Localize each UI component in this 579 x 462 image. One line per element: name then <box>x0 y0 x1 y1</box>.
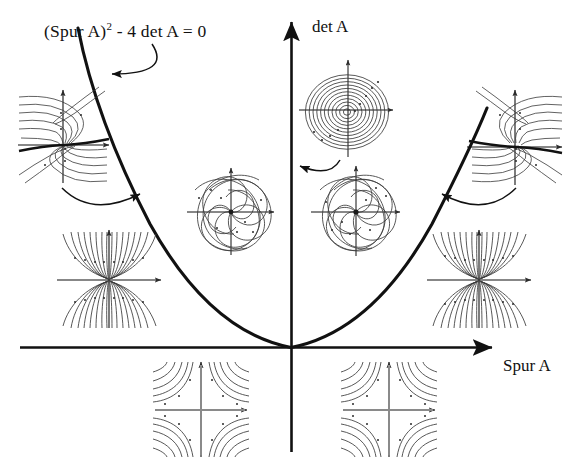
discriminant-equation-label: (Spur A)2 - 4 det A = 0 <box>44 20 206 42</box>
portrait-node-unstable <box>427 230 531 328</box>
x-axis-label: Spur A <box>503 356 551 376</box>
portrait-saddle-left <box>153 362 249 457</box>
portrait-saddle-right <box>341 362 437 457</box>
pointer-degenerate-left <box>62 188 140 205</box>
y-axis-label: det A <box>312 17 348 37</box>
portrait-spiral-unstable <box>311 166 400 256</box>
pointer-center <box>300 160 340 171</box>
discriminant-parabola <box>78 28 487 348</box>
portrait-spiral-stable <box>187 168 274 255</box>
discriminant-equation-base: (Spur A) <box>44 21 106 41</box>
trace-determinant-diagram: (Spur A)2 - 4 det A = 0 det A Spur A <box>0 0 579 462</box>
pointer-equation-to-curve <box>112 44 157 74</box>
portrait-degenerate-node-left <box>18 87 109 183</box>
diagram-canvas <box>0 0 579 462</box>
portrait-degenerate-node-right <box>467 87 562 185</box>
pointer-degenerate-right <box>442 188 516 205</box>
discriminant-equation-rest: - 4 det A = 0 <box>112 21 206 41</box>
portrait-node-stable <box>57 230 161 328</box>
portrait-center <box>299 60 393 157</box>
main-axes <box>20 22 492 452</box>
